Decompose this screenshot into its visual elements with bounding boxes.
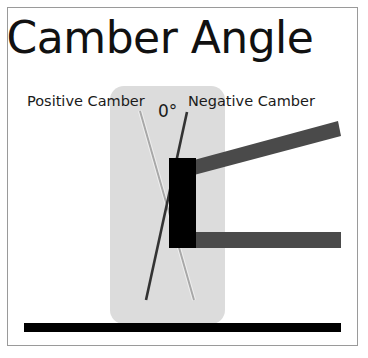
positive-camber-label: Positive Camber — [27, 93, 145, 109]
negative-camber-label: Negative Camber — [188, 93, 315, 109]
zero-degree-label: 0° — [158, 101, 177, 121]
ground-line — [24, 323, 341, 332]
wheel-hub — [169, 158, 196, 248]
lower-control-arm — [194, 232, 341, 248]
page-title: Camber Angle — [0, 12, 320, 63]
